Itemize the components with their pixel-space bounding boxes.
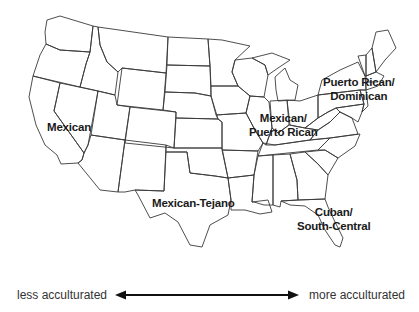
region-label-mexican-tejano-text: Mexican-Tejano — [152, 197, 235, 209]
state-mississippi — [252, 155, 273, 205]
state-minnesota — [208, 39, 250, 86]
region-label-line1: Puerto Rican/ — [323, 75, 395, 89]
state-new-mexico — [118, 140, 166, 192]
region-label-line2: Puerto Rican — [249, 125, 318, 139]
state-south-carolina — [305, 150, 338, 175]
state-south-dakota — [165, 65, 211, 96]
scale-right-label: more acculturated — [309, 288, 405, 302]
region-label-cuban-south-central: Cuban/ South-Central — [297, 205, 370, 233]
region-label-mexican-text: Mexican — [47, 121, 91, 133]
double-arrow-icon — [115, 289, 299, 301]
state-georgia — [290, 152, 328, 200]
state-michigan — [252, 53, 298, 101]
state-oklahoma — [166, 145, 228, 178]
state-vermont — [358, 55, 366, 76]
region-label-puerto-rican-dominican: Puerto Rican/ Dominican — [323, 75, 395, 103]
region-label-mexican: Mexican — [47, 120, 91, 134]
state-arizona — [78, 135, 125, 192]
state-nevada — [54, 83, 98, 153]
state-kansas — [174, 118, 222, 148]
region-label-line1: Cuban/ — [297, 205, 370, 219]
state-maine — [372, 30, 396, 72]
state-iowa — [211, 86, 250, 115]
scale-left-label: less acculturated — [17, 288, 107, 302]
state-montana — [98, 27, 168, 73]
region-label-mexican-puerto-rican: Mexican/ Puerto Rican — [249, 111, 318, 139]
state-arkansas — [222, 150, 258, 178]
state-north-dakota — [167, 37, 210, 66]
us-states-map — [0, 0, 419, 312]
region-label-line1: Mexican/ — [249, 111, 318, 125]
region-label-line2: Dominican — [323, 89, 395, 103]
state-colorado — [125, 107, 176, 148]
state-north-carolina — [318, 134, 360, 158]
state-wyoming — [117, 68, 166, 110]
state-nebraska — [163, 92, 218, 119]
region-label-mexican-tejano: Mexican-Tejano — [152, 196, 235, 210]
state-alabama — [273, 154, 298, 207]
region-label-line2: South-Central — [297, 219, 370, 233]
state-maryland-delaware — [336, 104, 364, 122]
state-utah — [91, 91, 130, 140]
